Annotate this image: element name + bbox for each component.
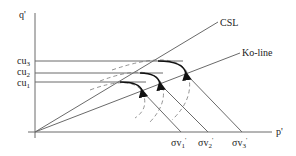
yield-surface-2 <box>100 72 164 122</box>
sigma-v3-line <box>186 74 242 132</box>
x-axis-label: p' <box>276 126 283 137</box>
ko-line-label: Ko-line <box>242 47 273 58</box>
ko-line <box>35 53 240 132</box>
csl-label: CSL <box>220 17 238 28</box>
yield-surface-3 <box>112 60 190 120</box>
stress-path-diagram: q' p' CSL Ko-line cu3 cu2 cu1 σv1' σv2' … <box>0 0 296 156</box>
sigma-v3-label: σv3' <box>232 136 247 150</box>
sigma-v1-label: σv1' <box>171 136 186 150</box>
sigma-v2-line <box>160 84 208 132</box>
sigma-v1-line <box>142 91 181 132</box>
stress-path-1 <box>120 82 142 91</box>
stress-path-3 <box>158 61 186 74</box>
csl-line <box>35 22 218 132</box>
sigma-v2-label: σv2' <box>198 136 213 150</box>
y-axis-label: q' <box>19 9 26 20</box>
